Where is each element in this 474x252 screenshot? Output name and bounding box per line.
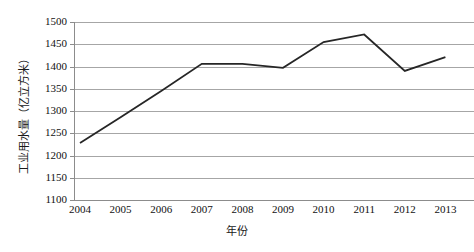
y-axis-tick-label: 1500 xyxy=(27,16,67,27)
plot-area xyxy=(74,22,474,200)
x-axis-tick-label: 2010 xyxy=(302,203,346,216)
x-axis-tick-label: 2004 xyxy=(58,203,102,216)
y-axis-tick-label: 1250 xyxy=(27,127,67,138)
line-chart-figure: 工业用水量（亿立方米） 1500145014001350130012501200… xyxy=(0,0,474,252)
y-axis-tick-label: 1300 xyxy=(27,105,67,116)
y-axis-tick-label: 1200 xyxy=(27,150,67,161)
x-axis-tick-label: 2007 xyxy=(180,203,224,216)
x-axis-tick-label: 2013 xyxy=(423,203,467,216)
x-axis-tick-labels: 2004200520062007200820092010201120122013 xyxy=(74,203,474,219)
y-axis-tick-label: 1400 xyxy=(27,61,67,72)
x-axis-tick-label: 2008 xyxy=(220,203,264,216)
x-axis-title: 年份 xyxy=(0,222,474,238)
y-axis-tick-label: 1350 xyxy=(27,83,67,94)
x-axis-tick-label: 2005 xyxy=(99,203,143,216)
data-series-line xyxy=(74,22,474,200)
x-axis-tick-label: 2012 xyxy=(383,203,427,216)
x-axis-tick-label: 2011 xyxy=(342,203,386,216)
y-axis-tick-labels: 150014501400135013001250120011501100 xyxy=(30,22,71,200)
x-axis-tick-label: 2006 xyxy=(139,203,183,216)
x-axis-tick-label: 2009 xyxy=(261,203,305,216)
y-axis-tick-label: 1150 xyxy=(27,172,67,183)
x-axis-line xyxy=(74,200,474,201)
y-axis-tick-label: 1450 xyxy=(27,38,67,49)
